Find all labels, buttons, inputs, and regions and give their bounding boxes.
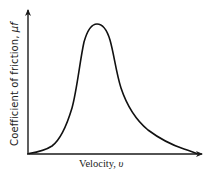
friction-curve (29, 24, 197, 154)
plot-area (0, 0, 211, 179)
y-axis-label: Coefficient of friction, μf (9, 22, 20, 146)
x-axis-label: Velocity, υ (79, 158, 123, 169)
y-axis-label-symbol: μf (9, 22, 20, 32)
y-axis-label-text: Coefficient of friction, (9, 32, 20, 146)
x-axis-label-text: Velocity, (79, 158, 119, 169)
x-axis-label-symbol: υ (119, 158, 124, 169)
friction-velocity-chart: Coefficient of friction, μf Velocity, υ (0, 0, 211, 179)
